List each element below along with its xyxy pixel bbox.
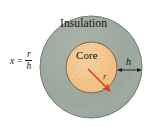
- formula-numerator: r: [26, 50, 32, 60]
- formula-x-equals-r-over-h: x = r h: [10, 50, 32, 71]
- formula-denominator: h: [25, 61, 32, 71]
- formula-equals-sign: =: [17, 56, 22, 66]
- formula-variable: x: [10, 55, 14, 66]
- core-label: Core: [76, 50, 98, 61]
- radius-label-r: r: [103, 72, 107, 81]
- thickness-label-h: h: [126, 57, 131, 67]
- formula-fraction: r h: [25, 50, 32, 71]
- insulated-core-diagram: Insulation Core h r x = r h: [0, 0, 152, 130]
- insulation-label: Insulation: [60, 18, 107, 30]
